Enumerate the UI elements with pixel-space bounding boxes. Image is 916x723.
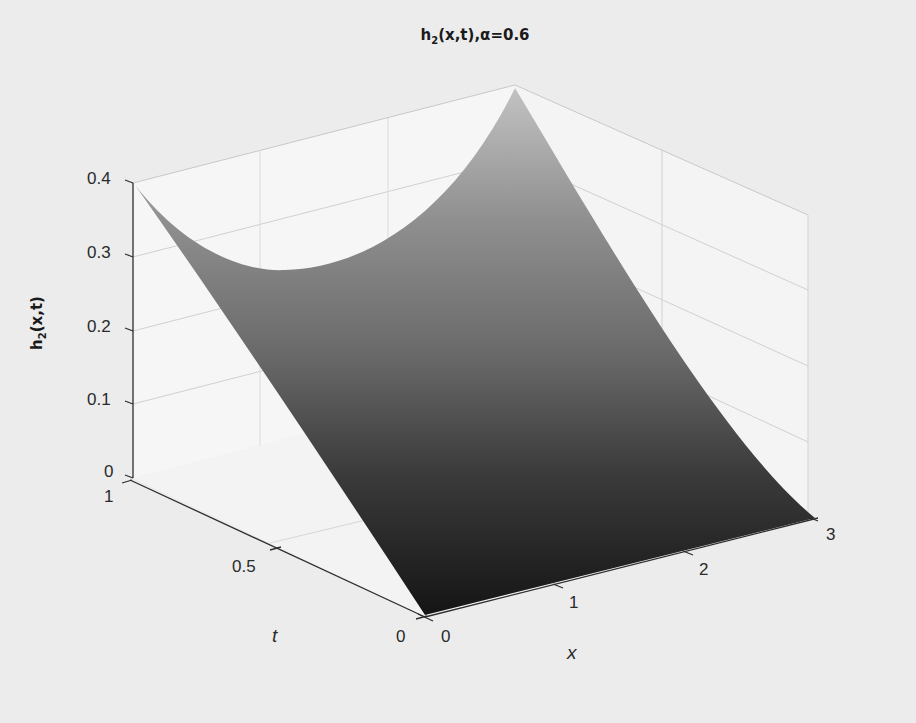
t-axis-label: t xyxy=(272,625,277,647)
plot-axes xyxy=(0,0,916,723)
t-tick-label: 0 xyxy=(396,627,405,647)
z-tick-label: 0.1 xyxy=(87,390,111,410)
x-tick-label: 0 xyxy=(441,627,450,647)
z-tick-label: 0.4 xyxy=(87,169,111,189)
x-axis-label: x xyxy=(567,642,577,664)
t-tick-label: 1 xyxy=(104,487,113,507)
z-tick-label: 0 xyxy=(104,462,113,482)
z-tick-label: 0.2 xyxy=(87,317,111,337)
x-tick-label: 1 xyxy=(569,593,578,613)
x-tick-label: 2 xyxy=(699,560,708,580)
surface-plot-figure: h2(x,t),α=0.6 h2(x,t) 0.4 0.3 0.2 0.1 0 … xyxy=(0,0,916,723)
z-axis-label: h2(x,t) xyxy=(28,296,48,350)
chart-title: h2(x,t),α=0.6 xyxy=(0,26,916,46)
t-tick-label: 0.5 xyxy=(232,557,256,577)
x-tick-label: 3 xyxy=(826,525,835,545)
z-tick-label: 0.3 xyxy=(87,243,111,263)
